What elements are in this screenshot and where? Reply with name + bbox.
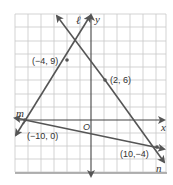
line-l-label: ℓ [76,14,81,26]
point-label-10-neg4: (10,−4) [120,149,149,159]
point-label-neg10-0: (−10, 0) [27,131,58,141]
coordinate-plane: ℓ y m x n O (−4, 9) (2, 6) (−10, 0) (10,… [0,0,173,185]
line-n-label: n [156,162,162,174]
point-neg4-9 [65,58,69,62]
point-10-neg4 [155,145,159,149]
point-label-2-6: (2, 6) [110,75,131,85]
x-axis-label: x [160,121,166,133]
origin-label: O [83,122,90,132]
line-m-label: m [16,107,24,119]
line-n-tail [57,16,105,80]
point-label-neg4-9: (−4, 9) [32,56,58,66]
y-axis-label: y [94,13,100,25]
point-2-6 [103,78,107,82]
